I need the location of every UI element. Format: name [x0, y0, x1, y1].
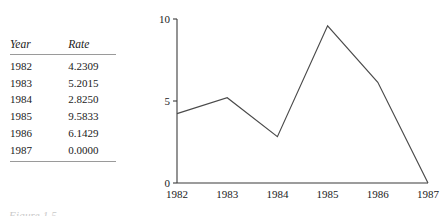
- x-tick-label: 1984: [266, 188, 289, 200]
- figure-caption: Figure 1.5: [9, 209, 57, 216]
- cell-year: 1987: [10, 142, 38, 162]
- table-row: 19824.2309: [10, 55, 116, 76]
- cell-rate: 4.2309: [38, 55, 116, 76]
- table-head: Year Rate: [10, 38, 116, 55]
- data-series-line: [177, 26, 428, 183]
- table-row: 19835.2015: [10, 75, 116, 92]
- y-tick-label: 5: [165, 95, 171, 107]
- rate-table: Year Rate 19824.230919835.201519842.8250…: [10, 38, 116, 162]
- cell-year: 1985: [10, 109, 38, 126]
- x-axis-ticks: 198219831984198519861987: [166, 188, 440, 200]
- column-header-year: Year: [10, 38, 38, 55]
- table-row: 19842.8250: [10, 92, 116, 109]
- table: Year Rate 19824.230919835.201519842.8250…: [10, 38, 116, 162]
- x-tick-label: 1985: [317, 188, 340, 200]
- y-axis-ticks: 0510: [159, 13, 177, 189]
- table-row: 19870.0000: [10, 142, 116, 162]
- cell-rate: 0.0000: [38, 142, 116, 162]
- cell-year: 1986: [10, 125, 38, 142]
- table-body: 19824.230919835.201519842.825019859.5833…: [10, 55, 116, 162]
- column-header-rate: Rate: [38, 38, 116, 55]
- cell-year: 1982: [10, 55, 38, 76]
- cell-rate: 2.8250: [38, 92, 116, 109]
- x-tick-label: 1986: [367, 188, 390, 200]
- table-header-row: Year Rate: [10, 38, 116, 55]
- table-row: 19859.5833: [10, 109, 116, 126]
- x-tick-label: 1983: [216, 188, 239, 200]
- cell-year: 1984: [10, 92, 38, 109]
- cell-rate: 5.2015: [38, 75, 116, 92]
- table-row: 19866.1429: [10, 125, 116, 142]
- x-tick-label: 1982: [166, 188, 188, 200]
- cell-rate: 6.1429: [38, 125, 116, 142]
- y-tick-label: 10: [159, 13, 171, 25]
- cell-year: 1983: [10, 75, 38, 92]
- x-tick-label: 1987: [417, 188, 440, 200]
- chart-svg: 0510 198219831984198519861987: [150, 4, 448, 216]
- cell-rate: 9.5833: [38, 109, 116, 126]
- line-chart: 0510 198219831984198519861987: [150, 4, 448, 216]
